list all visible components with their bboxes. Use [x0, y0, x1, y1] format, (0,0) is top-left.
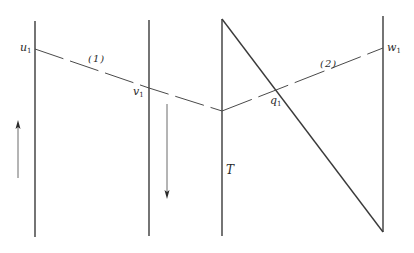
label-v1: v1	[133, 86, 144, 99]
diagram-canvas	[0, 0, 414, 253]
label-path-1: (1)	[88, 54, 105, 64]
dashed-path-1	[35, 49, 222, 111]
dashed-path-2	[222, 48, 383, 111]
label-path-2: (2)	[320, 59, 337, 69]
label-q1-base: q	[270, 94, 277, 107]
label-u1-sub: 1	[27, 47, 31, 55]
up-arrow-icon	[16, 120, 21, 178]
label-w1: w1	[387, 42, 401, 55]
diagonal-line	[222, 19, 383, 232]
label-w1-base: w	[387, 41, 396, 54]
label-T: T	[226, 164, 234, 176]
label-q1-sub: 1	[277, 100, 281, 108]
down-arrow-icon	[165, 104, 170, 199]
label-u1: u1	[20, 42, 32, 55]
label-v1-sub: 1	[139, 91, 143, 99]
label-w1-sub: 1	[396, 47, 400, 55]
label-q1: q1	[270, 95, 282, 108]
